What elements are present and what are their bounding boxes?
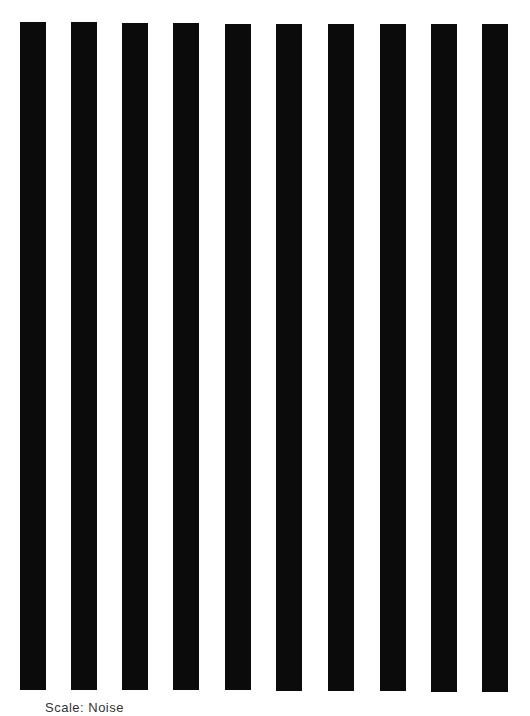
vertical-bar (482, 24, 508, 692)
vertical-bar (122, 23, 148, 690)
vertical-bar (380, 24, 406, 691)
figure-caption: Scale: Noise (45, 700, 124, 716)
vertical-bar (20, 22, 46, 690)
vertical-bar (276, 24, 302, 691)
vertical-bar (328, 24, 354, 691)
vertical-bar (225, 24, 251, 690)
vertical-bar (173, 23, 199, 690)
vertical-bar (71, 22, 97, 690)
vertical-bar (431, 24, 457, 692)
